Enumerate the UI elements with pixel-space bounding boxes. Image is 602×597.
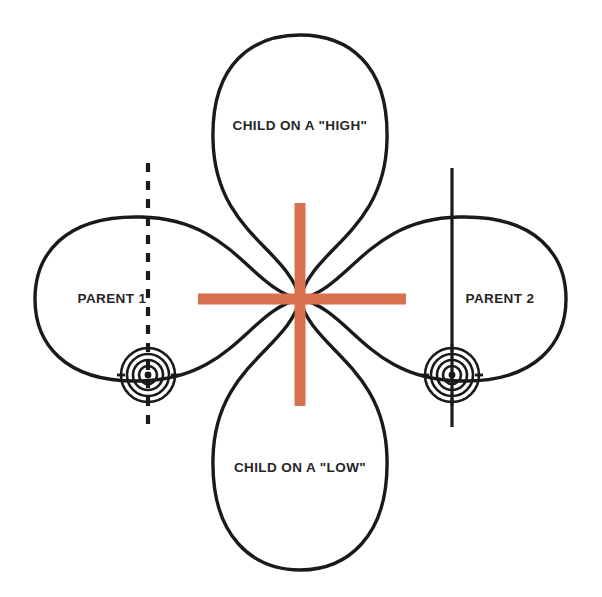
orange-cross-icon <box>198 203 406 406</box>
label-child-on-a-high: CHILD ON A "HIGH" <box>233 118 368 133</box>
label-parent-2: PARENT 2 <box>466 291 535 306</box>
diagram-canvas: CHILD ON A "HIGH" CHILD ON A "LOW" PAREN… <box>0 0 602 597</box>
label-parent-1: PARENT 1 <box>78 291 147 306</box>
label-child-on-a-low: CHILD ON A "LOW" <box>234 460 366 475</box>
bullseye-target-right-icon <box>421 344 483 406</box>
bullseye-target-left-icon <box>117 344 179 406</box>
